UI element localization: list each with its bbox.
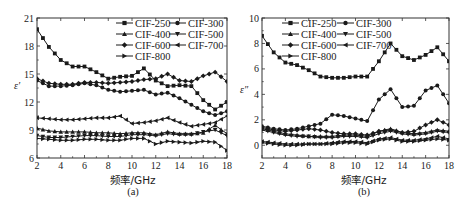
y-tick-label: 9 — [29, 125, 34, 136]
diamond-marker-icon — [122, 42, 127, 47]
square-marker-icon — [207, 103, 211, 107]
triangle-left-marker-icon — [106, 116, 110, 121]
legend-item: CIF-700 — [337, 40, 392, 51]
diamond-marker-icon — [147, 77, 152, 82]
x-tick-label: 6 — [82, 160, 87, 171]
square-marker-icon — [324, 75, 328, 79]
square-marker-icon — [160, 81, 164, 85]
legend-label: CIF-800 — [135, 51, 171, 62]
triangle-left-marker-icon — [159, 117, 163, 122]
square-marker-icon — [266, 42, 270, 46]
circle-marker-icon — [195, 106, 199, 110]
square-marker-icon — [278, 56, 282, 60]
triangle-left-marker-icon — [153, 118, 157, 123]
diamond-marker-icon — [411, 129, 416, 134]
triangle-left-marker-icon — [47, 117, 51, 122]
diamond-marker-icon — [441, 120, 446, 125]
circle-marker-icon — [175, 21, 179, 25]
circle-marker-icon — [394, 96, 398, 100]
triangle-right-marker-icon — [124, 137, 128, 142]
diamond-marker-icon — [324, 129, 329, 134]
square-marker-icon — [77, 65, 81, 69]
triangle-left-marker-icon — [70, 117, 74, 122]
circle-marker-icon — [418, 96, 422, 100]
triangle-left-marker-icon — [41, 116, 45, 121]
square-marker-icon — [348, 75, 352, 79]
y-tick-label: 6 — [29, 153, 34, 164]
square-marker-icon — [447, 59, 451, 63]
legend-item: CIF-300 — [169, 18, 224, 29]
square-marker-icon — [354, 75, 358, 79]
series-group — [260, 34, 452, 148]
y-tick-label: 8 — [254, 38, 259, 49]
circle-marker-icon — [348, 115, 352, 119]
x-tick-label: 8 — [106, 160, 111, 171]
triangle-left-marker-icon — [142, 120, 146, 125]
triangle-left-marker-icon — [76, 117, 80, 122]
square-marker-icon — [342, 76, 346, 80]
circle-marker-icon — [118, 90, 122, 94]
y-tick-label: 2 — [254, 114, 259, 125]
triangle-right-marker-icon — [172, 139, 176, 144]
circle-marker-icon — [371, 108, 375, 112]
triangle-left-marker-icon — [343, 42, 348, 47]
circle-marker-icon — [225, 109, 229, 113]
circle-marker-icon — [318, 122, 322, 126]
circle-marker-icon — [330, 113, 334, 117]
triangle-right-marker-icon — [130, 136, 134, 141]
square-marker-icon — [53, 52, 57, 56]
triangle-left-marker-icon — [201, 122, 205, 127]
square-marker-icon — [94, 70, 98, 74]
square-marker-icon — [430, 49, 434, 53]
triangle-left-marker-icon — [148, 119, 152, 124]
series-cif-800 — [35, 136, 229, 153]
square-marker-icon — [441, 52, 445, 56]
triangle-left-marker-icon — [88, 116, 92, 121]
circle-marker-icon — [429, 86, 433, 90]
diamond-marker-icon — [335, 131, 340, 136]
diamond-marker-icon — [312, 127, 317, 132]
square-marker-icon — [118, 75, 122, 79]
diamond-marker-icon — [183, 79, 188, 84]
series-cif-300 — [260, 83, 451, 132]
circle-marker-icon — [324, 117, 328, 121]
triangle-left-marker-icon — [53, 117, 57, 122]
triangle-right-marker-icon — [154, 142, 158, 147]
square-marker-icon — [383, 50, 387, 54]
y-tick-label: 0 — [254, 140, 259, 151]
circle-marker-icon — [343, 21, 347, 25]
square-marker-icon — [359, 75, 363, 79]
triangle-left-marker-icon — [100, 116, 104, 121]
legend-label: CIF-500 — [356, 29, 392, 40]
square-marker-icon — [47, 45, 51, 49]
circle-marker-icon — [136, 88, 140, 92]
square-marker-icon — [172, 84, 176, 88]
triangle-right-marker-icon — [100, 138, 104, 143]
square-marker-icon — [219, 104, 223, 108]
legend-label: CIF-700 — [356, 40, 392, 51]
square-marker-icon — [319, 75, 323, 79]
square-marker-icon — [213, 108, 217, 112]
circle-marker-icon — [100, 86, 104, 90]
diamond-marker-icon — [165, 72, 170, 77]
circle-marker-icon — [183, 100, 187, 104]
triangle-left-marker-icon — [112, 115, 116, 120]
circle-marker-icon — [154, 93, 158, 97]
square-marker-icon — [122, 21, 126, 25]
triangle-left-marker-icon — [183, 122, 187, 127]
square-marker-icon — [184, 84, 188, 88]
square-marker-icon — [195, 91, 199, 95]
circle-marker-icon — [160, 92, 164, 96]
y-tick-label: 18 — [24, 41, 34, 52]
y-tick-label: 6 — [254, 63, 259, 74]
triangle-left-marker-icon — [189, 124, 193, 129]
triangle-right-marker-icon — [166, 139, 170, 144]
diamond-marker-icon — [201, 73, 206, 78]
circle-marker-icon — [354, 117, 358, 121]
square-marker-icon — [400, 54, 404, 58]
series-cif-600 — [35, 70, 230, 87]
legend-label: CIF-400 — [135, 29, 171, 40]
triangle-left-marker-icon — [82, 117, 86, 122]
y-tick-label: 4 — [254, 89, 259, 100]
square-marker-icon — [377, 59, 381, 63]
